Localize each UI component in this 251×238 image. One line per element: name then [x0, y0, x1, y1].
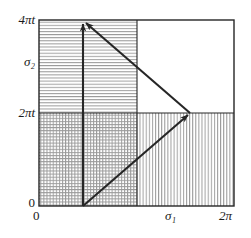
- y-tick-label-4pit: 4πt: [18, 13, 35, 26]
- x-tick-label-zero: 0: [33, 209, 40, 222]
- region-lower-left: [39, 113, 137, 206]
- x-tick-label-2pi: 2π: [219, 209, 232, 222]
- figure-container: 4πt σ₂ 2πt 0 0 σ₁ 2π: [0, 0, 251, 238]
- region-upper-left: [39, 20, 137, 113]
- y-axis-label: σ₂: [24, 55, 35, 68]
- region-upper-right: [137, 20, 234, 113]
- plot-area: [0, 0, 251, 238]
- x-axis-label: σ₁: [165, 209, 176, 222]
- y-tick-label-2pit: 2πt: [18, 106, 35, 119]
- region-lower-right: [137, 113, 234, 206]
